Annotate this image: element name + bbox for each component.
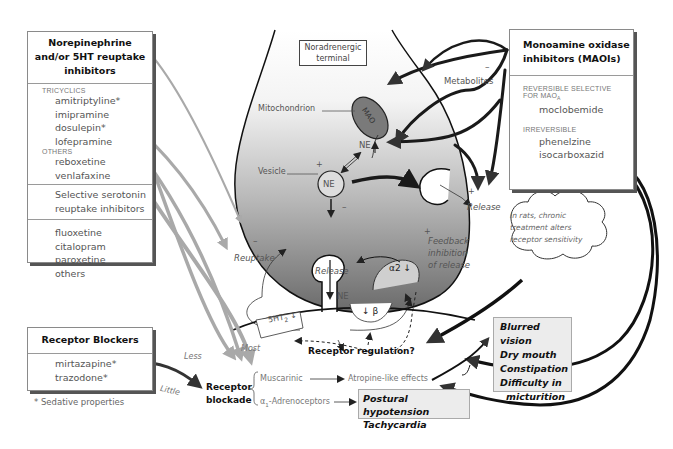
drug-others: others xyxy=(55,267,152,281)
effect-tachycardia: Tachycardia xyxy=(363,418,469,431)
effect-blurred-vision: Blurred vision xyxy=(500,320,571,348)
cloud-note: In rats, chronic treatment alters recept… xyxy=(510,210,582,246)
receptor-blockade-label: Receptor blockade xyxy=(206,381,252,407)
drug-venlafaxine: venlafaxine xyxy=(55,169,152,183)
alpha1-adrenoceptors-label: α1-Adrenoceptors xyxy=(260,397,330,408)
release-bottom-label: Release xyxy=(315,266,349,276)
vesicle-label: Vesicle xyxy=(258,167,286,176)
effect-dry-mouth: Dry mouth xyxy=(500,348,571,362)
category-reversible: Reversible selective xyxy=(523,85,633,92)
atropine-effects-label: Atropine-like effects xyxy=(348,374,428,383)
reuptake-label: Reuptake xyxy=(234,253,275,263)
less-label: Less xyxy=(184,352,202,361)
drug-mirtazapine: mirtazapine* xyxy=(55,357,152,371)
receptor-blockers-title: Receptor Blockers xyxy=(28,328,152,354)
beta-receptor-label: ↓ β xyxy=(362,306,378,316)
most-label: Most xyxy=(241,344,260,353)
drug-reboxetine: reboxetine xyxy=(55,155,152,169)
drug-paroxetine: paroxetine xyxy=(55,253,152,267)
mitochondrion-label: Mitochondrion xyxy=(258,104,315,113)
ssri-drugs-section: fluoxetine citalopram paroxetine others xyxy=(28,220,152,282)
ssri-title-section: Selective serotonin reuptake inhibitors xyxy=(28,185,152,220)
effect-constipation: Constipation xyxy=(500,362,571,376)
vesicle-minus: – xyxy=(342,202,347,212)
metabolites-label: Metabolites xyxy=(444,76,493,86)
category-tricyclics: Tricyclics xyxy=(42,87,152,94)
drug-lofepramine: lofepramine xyxy=(55,135,152,149)
tricyclics-section: Tricyclics amitriptyline* imipramine dos… xyxy=(28,84,152,185)
release-right-plus: + xyxy=(468,187,475,196)
anticholinergic-effects-box: Blurred vision Dry mouth Constipation Di… xyxy=(493,317,572,392)
alpha2-label: α2 ↓ xyxy=(389,263,411,273)
reuptake-inhibitors-title: Norepinephrine and/or 5HT reuptake inhib… xyxy=(28,32,152,84)
maoi-title: Monoamine oxidase inhibitors (MAOIs) xyxy=(510,30,633,76)
drug-moclobemide: moclobemide xyxy=(523,101,633,117)
drug-imipramine: imipramine xyxy=(55,108,152,122)
drug-phenelzine: phenelzine xyxy=(539,135,633,149)
category-for-mao-a: for MAOA xyxy=(523,92,633,101)
category-others: Others xyxy=(42,148,152,155)
maoi-box: Monoamine oxidase inhibitors (MAOIs) Rev… xyxy=(509,29,634,190)
release-right-label: Release xyxy=(467,202,501,212)
feedback-inhibition-label: Feedback inhibition of release xyxy=(428,235,470,271)
muscarinic-label: Muscarinic xyxy=(260,374,303,383)
sedative-footnote: * Sedative properties xyxy=(34,397,124,407)
metabolites-minus: – xyxy=(485,62,490,72)
ne-cytoplasm-label: NE xyxy=(359,140,371,150)
drug-fluoxetine: fluoxetine xyxy=(55,226,152,240)
vesicle-plus: + xyxy=(316,160,323,169)
drug-citalopram: citalopram xyxy=(55,240,152,254)
drug-amitriptyline: amitriptyline* xyxy=(55,94,152,108)
ne-synapse-label: NE xyxy=(337,291,349,301)
receptor-blockers-box: Receptor Blockers mirtazapine* trazodone… xyxy=(27,327,153,391)
vesicle-ne-label: NE xyxy=(323,179,335,189)
effect-postural-hypotension: Postural hypotension xyxy=(363,392,469,418)
category-irreversible: Irreversible xyxy=(523,126,633,133)
reuptake-inhibitors-box: Norepinephrine and/or 5HT reuptake inhib… xyxy=(27,31,153,263)
effect-micturition: micturition xyxy=(500,390,571,404)
receptor-regulation-label: Receptor regulation? xyxy=(308,346,415,356)
noradrenergic-terminal-label: Noradrenergic terminal xyxy=(299,40,367,66)
drug-trazodone: trazodone* xyxy=(55,371,152,385)
effect-difficulty-in: Difficulty in xyxy=(500,376,571,390)
drug-isocarboxazid: isocarboxazid xyxy=(539,148,633,162)
feedback-plus: + xyxy=(424,227,431,236)
drug-dosulepin: dosulepin* xyxy=(55,121,152,135)
reuptake-minus: – xyxy=(253,236,258,246)
cardiovascular-effects-box: Postural hypotension Tachycardia xyxy=(358,389,470,419)
